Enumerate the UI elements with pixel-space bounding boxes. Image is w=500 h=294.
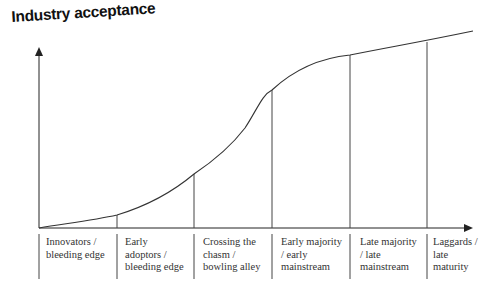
- adoption-curve: [39, 31, 473, 228]
- stage-dividers: [117, 42, 427, 228]
- stage-label-laggards: Laggards / late maturity: [433, 236, 495, 274]
- y-axis-arrow-icon: [35, 47, 43, 56]
- stage-label-early-adoptors: Early adoptors / bleeding edge: [125, 236, 199, 274]
- stage-label-late-majority: Late majority / late mainstream: [360, 236, 434, 274]
- stage-label-innovators: Innovators / bleeding edge: [46, 236, 120, 261]
- stage-label-crossing-chasm: Crossing the chasm / bowling alley: [203, 236, 277, 274]
- stage-label-early-majority: Early majority / early mainstream: [281, 236, 355, 274]
- x-axis-arrow-icon: [464, 224, 473, 232]
